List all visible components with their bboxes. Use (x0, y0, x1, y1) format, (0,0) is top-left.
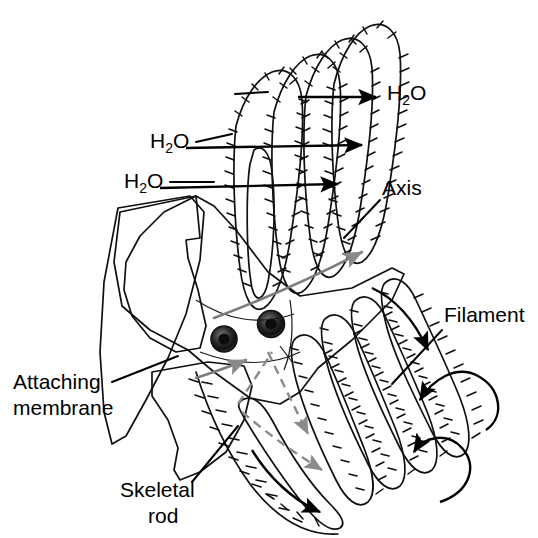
attaching-membrane-sheet (100, 196, 204, 444)
label-filament: Filament (444, 303, 525, 326)
label-water-lower-left: H2O (124, 169, 163, 196)
cut-away-cavity-upper (124, 196, 206, 352)
water-arrow-lower (160, 184, 338, 188)
gill-filament-figure: H2O H2O H2O Axis Filament Attaching memb… (0, 0, 538, 538)
label-water-upper-left: H2O (150, 129, 189, 156)
skeletal-rod-upper (247, 148, 274, 298)
leader-filament (392, 330, 442, 384)
blood-arrow-dashed-3 (238, 352, 272, 404)
label-axis: Axis (382, 176, 422, 199)
loop-arrow-outer-right (420, 372, 498, 430)
water-tick-mark (235, 92, 268, 94)
cut-away-cavity-lower (152, 362, 252, 480)
loop-arrow-up-right (372, 288, 428, 350)
label-skeletal-rod-line2: rod (148, 504, 178, 527)
upper-filament-row (225, 21, 409, 309)
blood-vessel-pair (211, 311, 285, 353)
leader-water-upper-left (196, 134, 232, 142)
label-attaching-membrane-line1: Attaching (13, 370, 101, 393)
blood-arrow-axis (214, 252, 362, 318)
water-arrow-middle (186, 145, 362, 148)
diagram-canvas: H2O H2O H2O Axis Filament Attaching memb… (0, 0, 538, 538)
leader-axis (344, 200, 380, 238)
skeletal-rod-structure (189, 372, 343, 534)
label-attaching-membrane-line2: membrane (13, 396, 113, 419)
label-skeletal-rod-line1: Skeletal (120, 478, 195, 501)
label-water-right: H2O (387, 81, 426, 108)
